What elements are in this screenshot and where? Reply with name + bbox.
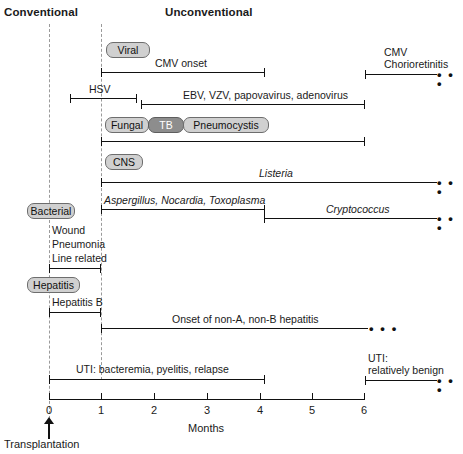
bar-fungal-group <box>101 137 365 146</box>
bar-cryptococcus <box>264 214 437 223</box>
transplantation-arrow-icon <box>44 417 54 439</box>
bar-label-hepatitis-b: Hepatitis B <box>52 296 103 308</box>
axis-tick-label-1: 1 <box>91 404 111 416</box>
bar-non-a-non-b-hepatitis <box>101 324 368 333</box>
axis-tick-label-2: 2 <box>144 404 164 416</box>
bar-label-wound: Wound <box>52 224 85 236</box>
bar-label-cmv-chorioretinitis-line1: CMV <box>384 46 407 58</box>
bar-ellipsis-listeria: • • • <box>437 178 463 187</box>
bar-cmv-chorioretinitis <box>365 70 437 79</box>
axis-title-months: Months <box>188 422 224 434</box>
axis-tick-label-5: 5 <box>302 404 322 416</box>
bar-label-line-related: Line related <box>52 252 107 264</box>
timeline-figure: Conventional Unconventional Viral CMV on… <box>0 0 463 454</box>
heading-unconventional: Unconventional <box>165 6 253 18</box>
axis-tick-0 <box>49 393 50 400</box>
category-badge-pneumocystis: Pneumocystis <box>183 117 269 133</box>
axis-tick-2 <box>154 393 155 400</box>
category-badge-viral: Viral <box>106 42 150 58</box>
bar-listeria <box>101 178 437 187</box>
bar-label-uti-late-line1: UTI: <box>368 352 388 364</box>
bar-label-uti-late-line2: relatively benign <box>368 364 444 376</box>
bar-label-uti-early: UTI: bacteremia, pyelitis, relapse <box>76 363 229 375</box>
bar-uti-late <box>365 376 437 385</box>
bar-label-pneumonia: Pneumonia <box>52 238 105 250</box>
bar-ellipsis-non-a-non-b-hepatitis: • • • <box>369 324 398 333</box>
category-badge-hepatitis: Hepatitis <box>27 277 80 293</box>
bar-ellipsis-cmv-chorioretinitis: • • • <box>437 70 463 79</box>
heading-conventional: Conventional <box>4 6 78 18</box>
category-badge-bacterial: Bacterial <box>27 203 75 219</box>
bar-hsv <box>70 94 137 103</box>
bar-hepatitis-b <box>49 308 101 317</box>
axis-tick-label-3: 3 <box>197 404 217 416</box>
axis-tick-6 <box>364 393 365 400</box>
bar-ebv-group <box>141 100 365 109</box>
axis-tick-1 <box>101 393 102 400</box>
category-badge-cns: CNS <box>105 154 143 170</box>
bar-ellipsis-uti-late: • • • <box>437 376 463 385</box>
transplantation-label: Transplantation <box>4 438 79 450</box>
category-badge-tb: TB <box>148 117 184 133</box>
bar-aspergillus-group <box>101 205 265 214</box>
axis-tick-3 <box>207 393 208 400</box>
bar-cmv-onset <box>101 68 265 77</box>
bar-bacterial-early <box>49 264 101 273</box>
axis-tick-label-6: 6 <box>354 404 374 416</box>
guide-line-month-0 <box>49 24 50 429</box>
axis-tick-label-0: 0 <box>39 404 59 416</box>
axis-tick-label-4: 4 <box>250 404 270 416</box>
axis-tick-4 <box>260 393 261 400</box>
bar-uti-early <box>49 375 265 384</box>
axis-tick-5 <box>312 393 313 400</box>
bar-ellipsis-cryptococcus: • • • <box>437 214 463 223</box>
category-badge-fungal: Fungal <box>105 117 149 133</box>
